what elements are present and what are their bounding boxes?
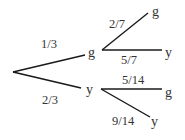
probability-tree-diagram: 1/3 2/3 g y 2/7 5/7 g y 5/14 9/14 g y (0, 0, 185, 140)
edge-root-to-g (13, 55, 85, 72)
leaf-label-g-g: g (152, 4, 159, 19)
leaf-label-g-y: y (165, 45, 172, 60)
prob-label-y-g: 5/14 (122, 73, 145, 87)
prob-label-root-y: 2/3 (42, 93, 58, 107)
node-label-y: y (86, 82, 93, 97)
edge-root-to-y (13, 72, 81, 88)
prob-label-g-g: 2/7 (109, 17, 125, 31)
node-label-g: g (88, 45, 95, 60)
prob-label-y-y: 9/14 (112, 114, 135, 128)
prob-label-root-g: 1/3 (41, 37, 57, 51)
leaf-label-y-y: y (151, 114, 158, 129)
edge-y-to-y (101, 89, 150, 117)
leaf-label-y-g: g (165, 85, 172, 100)
prob-label-g-y: 5/7 (121, 53, 137, 67)
